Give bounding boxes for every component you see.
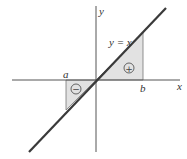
integral-diagram: + − y x y = x a b [0, 0, 187, 159]
a-label: a [63, 68, 69, 80]
minus-sign: − [72, 84, 80, 94]
plus-sign: + [125, 64, 133, 74]
line-label: y = x [108, 36, 132, 48]
x-axis-label: x [176, 80, 182, 92]
b-label: b [140, 82, 146, 94]
y-axis-label: y [98, 5, 104, 17]
negative-region [66, 80, 96, 110]
